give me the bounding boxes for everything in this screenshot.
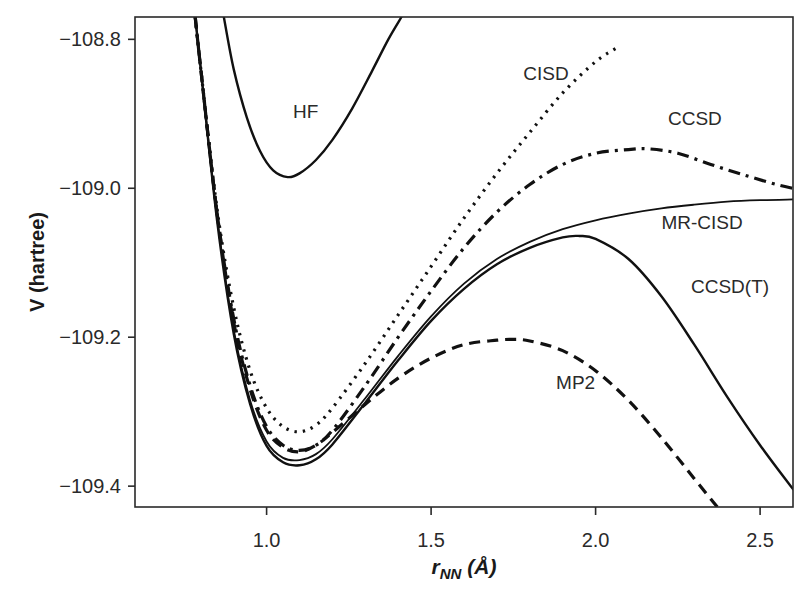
curve-labels: HFCISDCCSDMP2MR-CISDCCSD(T) <box>293 63 769 393</box>
curve-ccsd-t <box>195 17 793 489</box>
x-tick-label: 1.5 <box>417 529 445 551</box>
y-axis-title: V (hartree) <box>26 212 48 312</box>
curves-group <box>195 17 793 507</box>
plot-frame <box>135 17 793 507</box>
x-tick-label: 2.0 <box>582 529 610 551</box>
x-tick-label: 2.5 <box>746 529 774 551</box>
y-tick-label: −109.2 <box>59 326 121 348</box>
potential-energy-chart: 1.01.52.02.5 −108.8−109.0−109.2−109.4 HF… <box>0 0 811 592</box>
curve-ccsd <box>195 17 793 450</box>
curve-label-cisd: CISD <box>523 63 568 84</box>
y-tick-label: −109.0 <box>59 177 121 199</box>
curve-hf <box>224 17 402 177</box>
y-axis: −108.8−109.0−109.2−109.4 <box>59 28 135 497</box>
curve-label-mp2: MP2 <box>556 372 595 393</box>
y-tick-label: −108.8 <box>59 28 121 50</box>
curve-label-mr-cisd: MR-CISD <box>661 212 742 233</box>
x-axis-title-unit: (Å) <box>461 555 496 578</box>
curve-mr-cisd <box>195 17 793 460</box>
x-tick-label: 1.0 <box>253 529 281 551</box>
curve-label-ccsd: CCSD <box>668 108 722 129</box>
curve-mp2 <box>195 17 717 507</box>
y-tick-label: −109.4 <box>59 475 121 497</box>
curve-label-ccsd-t: CCSD(T) <box>691 276 769 297</box>
curve-label-hf: HF <box>293 101 318 122</box>
x-axis: 1.01.52.02.5 <box>253 507 774 551</box>
x-axis-title-sub: NN <box>440 565 463 582</box>
x-axis-title: rNN (Å) <box>432 555 497 582</box>
